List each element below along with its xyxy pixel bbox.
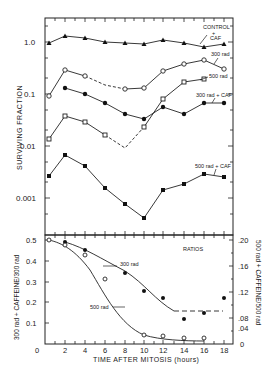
lower-right-tick-label: .04	[238, 324, 248, 333]
lower-right-tick-label: .12	[238, 288, 248, 297]
lower-right-axis-title: 500 rad + CAFFEINE/500 rad	[255, 240, 262, 326]
svg-text:2: 2	[63, 346, 67, 355]
lower-right-tick-label: 0	[240, 340, 244, 349]
lower-right-tick-label: .08	[238, 314, 248, 323]
lower-right-tick-label: .20	[238, 236, 248, 245]
label-lower-300rad: 300 rad	[120, 261, 139, 267]
upper-y-ticks	[45, 26, 233, 214]
upper-y-axis-title: SURVIVING FRACTION	[16, 85, 23, 170]
lower-left-axis-title: 300 rad + CAFFEINE/300 rad	[13, 254, 20, 340]
label-300rad: 300 rad	[211, 51, 230, 57]
svg-text:0: 0	[35, 346, 39, 355]
svg-text:4: 4	[83, 346, 87, 355]
svg-text:14: 14	[180, 346, 188, 355]
series-500rad-line	[49, 116, 105, 139]
lower-y-ticks	[45, 240, 233, 331]
lower-left-tick-label: 0.1	[26, 319, 36, 328]
svg-text:6: 6	[103, 346, 107, 355]
upper-y-tick-label: 0.1	[24, 90, 36, 99]
arrow-300rad	[214, 58, 218, 64]
arrow-500rad-caf	[214, 169, 216, 175]
series-300rad-dashed	[85, 76, 125, 89]
label-caf: CAF	[210, 35, 222, 41]
lower-plot-frame	[45, 235, 233, 344]
lower-left-tick-label: 0.5	[26, 236, 36, 245]
series-500rad-markers	[47, 77, 206, 141]
lower-left-tick-label: 0.2	[26, 298, 36, 307]
svg-text:12: 12	[159, 346, 167, 355]
label-lower-500rad: 500 rad	[90, 304, 109, 310]
upper-plot-frame	[45, 18, 233, 235]
upper-y-tick-label: 1.0	[24, 38, 36, 47]
fit-500rad-curve	[49, 240, 204, 341]
series-control-caf-line	[49, 36, 224, 47]
chart-figure: 1.0 0.1 0.01 0.001 SURVIVING FRACTION 0.…	[0, 0, 273, 379]
x-tick-labels: 0 2 4 6 8 10 12 14 16 18	[35, 346, 228, 355]
x-axis-title: TIME AFTER MITOSIS (hours)	[93, 356, 199, 364]
fit-300rad-curve	[65, 242, 174, 311]
ratio-300rad-markers	[63, 240, 226, 321]
arrow-300rad-caf	[212, 98, 215, 103]
arrow-control	[200, 35, 207, 44]
upper-y-tick-label: 0.001	[16, 194, 37, 203]
lower-left-tick-label: 0.3	[26, 278, 36, 287]
label-500rad-caf: 500 rad + CAF	[195, 163, 232, 169]
series-500rad-line-2	[144, 79, 204, 127]
lower-right-tick-label: .16	[238, 262, 248, 271]
svg-text:18: 18	[220, 346, 228, 355]
ratio-500rad-markers	[47, 238, 206, 340]
label-300rad-caf: 300 rad + CAF	[196, 92, 233, 98]
lower-left-tick-label: 0.4	[26, 257, 36, 266]
label-500rad: 500 rad	[209, 73, 228, 79]
series-control-caf-markers	[47, 34, 227, 50]
x-ticks-top	[55, 18, 224, 22]
label-control: CONTROL	[203, 24, 230, 30]
svg-text:10: 10	[140, 346, 148, 355]
svg-text:8: 8	[123, 346, 127, 355]
ratios-label: RATIOS	[183, 246, 203, 252]
series-500rad-dashed	[105, 127, 144, 148]
svg-text:16: 16	[200, 346, 208, 355]
